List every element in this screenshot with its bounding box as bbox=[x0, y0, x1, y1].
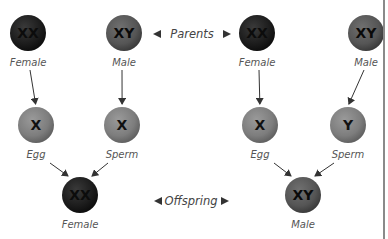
sperm-label: Sperm bbox=[106, 149, 139, 160]
arrow bbox=[274, 163, 291, 176]
egg-node: XEgg bbox=[242, 107, 278, 160]
arrow bbox=[92, 163, 108, 176]
egg-label: Egg bbox=[250, 149, 269, 160]
egg-label: Egg bbox=[26, 149, 45, 160]
offspring-chromosomes: XY bbox=[293, 187, 315, 203]
sperm-chromosomes: X bbox=[117, 117, 128, 133]
male-parent-label: Male bbox=[354, 57, 378, 68]
male-parent-chromosomes: XY bbox=[114, 25, 136, 41]
arrow bbox=[259, 70, 260, 104]
offspring-node: XYMale bbox=[285, 177, 321, 230]
female-parent-label: Female bbox=[239, 57, 276, 68]
left-triangle-icon bbox=[153, 30, 161, 38]
offspring-label: Offspring bbox=[164, 194, 217, 208]
right-triangle-icon bbox=[223, 30, 231, 38]
egg-chromosomes: X bbox=[31, 117, 42, 133]
female-parent-node: XXFemale bbox=[10, 15, 47, 68]
parents-label-group: Parents bbox=[153, 27, 231, 41]
sperm-node: XSperm bbox=[104, 107, 140, 160]
sperm-chromosomes: Y bbox=[342, 117, 354, 133]
cross-1: XXFemaleXYMaleXEggXSpermXXFemale bbox=[10, 15, 142, 230]
female-parent-chromosomes: XX bbox=[246, 25, 268, 41]
egg-chromosomes: X bbox=[255, 117, 266, 133]
offspring-chromosomes: XX bbox=[69, 187, 91, 203]
right-border-divider bbox=[383, 0, 385, 239]
male-parent-label: Male bbox=[112, 57, 136, 68]
arrow bbox=[50, 163, 68, 176]
arrow bbox=[30, 70, 36, 104]
offspring-label-group: Offspring bbox=[154, 194, 229, 208]
cross-2: XXFemaleXYMaleXEggYSpermXYMale bbox=[239, 15, 384, 230]
arrow bbox=[315, 163, 334, 176]
sperm-label: Sperm bbox=[332, 149, 365, 160]
male-parent-node: XYMale bbox=[348, 15, 384, 68]
arrow bbox=[349, 70, 364, 104]
offspring-label: Male bbox=[291, 219, 315, 230]
female-parent-label: Female bbox=[10, 57, 47, 68]
right-triangle-icon bbox=[221, 197, 229, 205]
offspring-label: Female bbox=[62, 219, 99, 230]
egg-node: XEgg bbox=[18, 107, 54, 160]
sex-determination-diagram: Parents Offspring XXFemaleXYMaleXEggXSpe… bbox=[0, 0, 388, 239]
sperm-node: YSperm bbox=[330, 107, 366, 160]
male-parent-node: XYMale bbox=[106, 15, 142, 68]
offspring-node: XXFemale bbox=[62, 177, 99, 230]
female-parent-node: XXFemale bbox=[239, 15, 276, 68]
parents-label: Parents bbox=[170, 27, 214, 41]
left-triangle-icon bbox=[154, 197, 162, 205]
male-parent-chromosomes: XY bbox=[356, 25, 378, 41]
female-parent-chromosomes: XX bbox=[17, 25, 39, 41]
